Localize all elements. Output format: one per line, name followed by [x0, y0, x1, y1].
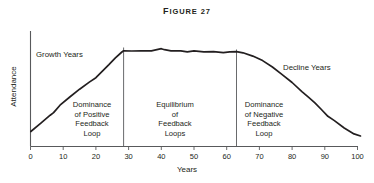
annotation-equilibrium-region: Equilibrium of Feedback Loops	[143, 100, 207, 138]
x-tick-label: 50	[182, 152, 206, 161]
x-tick-label: 90	[313, 152, 337, 161]
x-axis-title: Years	[0, 165, 374, 174]
x-tick-label: 100	[346, 152, 370, 161]
x-tick-label: 80	[280, 152, 304, 161]
x-tick-label: 0	[19, 152, 43, 161]
x-tick-label: 40	[149, 152, 173, 161]
annotation-negative-feedback-region: Dominance of Negative Feedback Loop	[232, 100, 296, 138]
annotation-decline-years: Decline Years	[283, 63, 331, 72]
x-tick-label: 70	[247, 152, 271, 161]
annotation-growth-years: Growth Years	[36, 50, 83, 59]
x-tick-label: 60	[215, 152, 239, 161]
x-tick-label: 20	[84, 152, 108, 161]
annotation-positive-feedback-region: Dominance of Positive Feedback Loop	[60, 100, 124, 138]
x-tick-label: 30	[117, 152, 141, 161]
y-axis-title: Attendance	[9, 52, 18, 122]
x-tick-label: 10	[51, 152, 75, 161]
figure-container: FIGURE 27 0 10 20 30 40 50 60 70	[0, 0, 374, 183]
